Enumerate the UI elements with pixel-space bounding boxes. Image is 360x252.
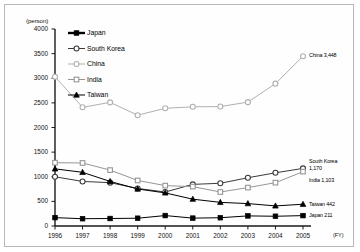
y-axis-tick-label: 3000: [22, 74, 48, 81]
data-point-marker: [273, 170, 278, 175]
y-axis-tick-label: 1500: [22, 148, 48, 155]
data-point-marker: [80, 216, 85, 221]
data-point-marker: [135, 178, 140, 183]
data-point-marker: [190, 184, 195, 189]
y-axis-tick-label: 2500: [22, 99, 48, 106]
series-taiwan: [52, 166, 306, 208]
data-point-marker: [74, 62, 79, 67]
data-point-marker: [218, 104, 223, 109]
data-point-marker: [273, 180, 278, 185]
data-point-marker: [80, 179, 85, 184]
x-axis-tick-label: 2003: [234, 232, 262, 239]
data-point-marker: [135, 113, 140, 118]
legend-item-india: [68, 77, 85, 82]
data-point-marker: [218, 215, 223, 220]
legend-label-china: China: [87, 60, 105, 67]
legend-label-india: India: [87, 76, 102, 83]
data-point-marker: [163, 183, 168, 188]
data-point-marker: [108, 100, 113, 105]
y-axis-tick-label: 500: [22, 197, 48, 204]
japan-end-label: Japan 211: [309, 212, 332, 218]
india-end-label: India 1,103: [309, 177, 334, 183]
data-point-marker: [74, 77, 79, 82]
x-axis-tick-label: 2002: [206, 232, 234, 239]
y-axis-tick-label: 1000: [22, 173, 48, 180]
data-point-marker: [218, 181, 223, 186]
data-point-marker: [246, 214, 251, 219]
x-axis-tick-label: 2001: [179, 232, 207, 239]
legend-label-taiwan: Taiwan: [87, 91, 108, 98]
x-axis-tick-label: 2005: [289, 232, 317, 239]
series-india: [53, 160, 306, 194]
data-point-marker: [190, 104, 195, 109]
x-axis-tick-label: 1996: [41, 232, 69, 239]
legend-label-japan: Japan: [87, 29, 106, 36]
data-point-marker: [245, 100, 250, 105]
data-point-marker: [245, 175, 250, 180]
y-axis-tick-label: 0: [22, 222, 48, 229]
taiwan-end-label: Taiwan 442: [309, 201, 335, 207]
legend-item-japan: [68, 31, 85, 36]
y-axis-tick-label: 4000: [22, 25, 48, 32]
data-point-marker: [163, 213, 168, 218]
data-point-marker: [273, 81, 278, 86]
data-point-marker: [246, 185, 251, 190]
x-axis-tick-label: 2000: [151, 232, 179, 239]
china-end-label: China 3,448: [309, 52, 336, 58]
data-point-marker: [273, 214, 278, 219]
data-point-marker: [108, 216, 113, 221]
data-point-marker: [53, 174, 58, 179]
data-point-marker: [52, 166, 58, 171]
data-point-marker: [301, 54, 306, 59]
data-point-marker: [53, 160, 58, 165]
data-point-marker: [53, 215, 58, 220]
line-chart: [0, 0, 360, 252]
data-point-marker: [108, 168, 113, 173]
data-point-marker: [80, 161, 85, 166]
data-point-marker: [301, 169, 306, 174]
x-axis-tick-label: 1999: [124, 232, 152, 239]
data-point-marker: [74, 46, 79, 51]
x-axis-tick-label: 1997: [69, 232, 97, 239]
south-korea-end-value: 1,170: [309, 165, 322, 171]
data-point-marker: [301, 213, 306, 218]
series-south-korea: [53, 166, 306, 195]
data-point-marker: [74, 31, 79, 36]
data-point-marker: [135, 216, 140, 221]
x-axis-tick-label: 2004: [261, 232, 289, 239]
legend-item-south-korea: [68, 46, 85, 51]
data-point-marker: [300, 201, 306, 206]
legend-label-south-korea: South Korea: [87, 45, 125, 52]
y-axis-tick-label: 2000: [22, 124, 48, 131]
south-korea-end-label: South Korea: [309, 158, 337, 164]
data-point-marker: [163, 106, 168, 111]
data-point-marker: [190, 216, 195, 221]
data-point-marker: [53, 74, 58, 79]
legend-item-taiwan: [68, 92, 85, 97]
x-axis-tick-label: 1998: [96, 232, 124, 239]
y-axis-tick-label: 3500: [22, 50, 48, 57]
series-japan: [53, 213, 306, 221]
legend-item-china: [68, 62, 85, 67]
data-point-marker: [218, 190, 223, 195]
data-point-marker: [80, 105, 85, 110]
